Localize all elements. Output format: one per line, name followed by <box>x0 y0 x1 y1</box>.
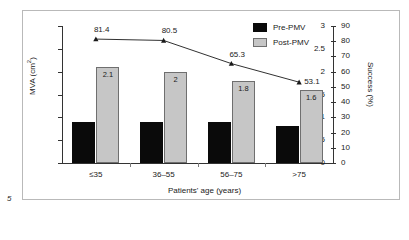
success-point-label: 80.5 <box>162 27 178 35</box>
chart-legend: Pre-PMVPost-PMV <box>253 21 309 51</box>
legend-swatch-icon <box>253 23 267 32</box>
success-point-label: 53.1 <box>304 78 320 86</box>
legend-item-label: Post-PMV <box>273 38 309 47</box>
success-point-label: 81.4 <box>94 26 110 34</box>
y-axis-right-tick-label: 90 <box>341 22 350 30</box>
figure-number-label: 5 <box>7 194 11 204</box>
x-axis-category-label: >75 <box>259 170 339 179</box>
success-point-label: 65.3 <box>229 51 245 59</box>
x-axis-tick <box>265 163 266 167</box>
y-axis-right-tick <box>331 163 336 164</box>
legend-item: Pre-PMV <box>253 21 309 34</box>
y-axis-left-title-text: MVA (cm2) <box>28 57 37 95</box>
y-axis-right-tick-label: 10 <box>341 144 350 152</box>
legend-item-label: Pre-PMV <box>273 23 305 32</box>
x-axis-tick <box>198 163 199 167</box>
y-axis-right-tick-label: 70 <box>341 52 350 60</box>
legend-swatch-icon <box>253 38 267 47</box>
y-axis-left-tick <box>58 163 62 164</box>
y-axis-right-tick-label: 20 <box>341 129 350 137</box>
y-axis-right-tick-label: 60 <box>341 68 350 76</box>
y-axis-right-title: Success (%) <box>366 62 375 107</box>
y-axis-right-tick-label: 50 <box>341 83 350 91</box>
y-axis-right-tick-label: 30 <box>341 113 350 121</box>
y-axis-left-title: MVA (cm2) <box>26 57 37 95</box>
y-axis-right-tick-label: 40 <box>341 98 350 106</box>
legend-item: Post-PMV <box>253 36 309 49</box>
y-axis-right-tick-label: 0 <box>341 159 345 167</box>
x-axis-title: Patients' age (years) <box>0 186 409 195</box>
y-axis-left-title-superscript: 2 <box>26 60 32 63</box>
x-axis-tick <box>130 163 131 167</box>
y-axis-right-tick-label: 80 <box>341 37 350 45</box>
y-axis-right-line <box>333 26 334 164</box>
